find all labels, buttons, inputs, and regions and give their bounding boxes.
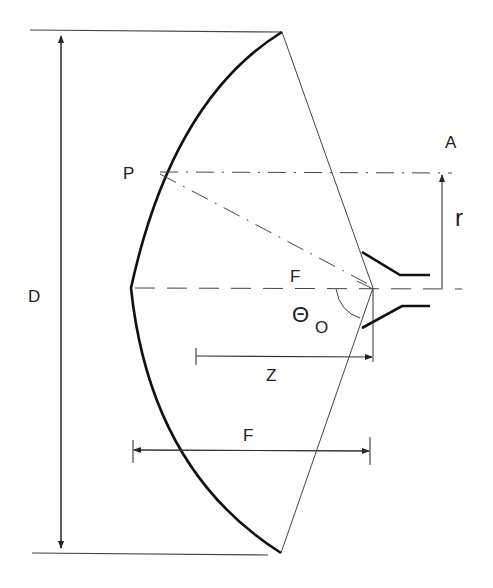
label-p: P (123, 164, 134, 183)
label-focus: F (290, 267, 300, 286)
reflector-diagram: D P A r F Θ O Z F (0, 0, 493, 588)
label-theta-subscript: O (315, 318, 328, 337)
aperture-ray (160, 172, 452, 173)
z-dimension-arrow (196, 356, 372, 357)
bottom-extension-line (32, 553, 268, 555)
upper-edge-ray (282, 32, 373, 288)
parabolic-dish (131, 32, 282, 553)
label-d: D (28, 287, 40, 306)
label-a: A (445, 133, 457, 152)
label-theta: Θ (292, 302, 309, 327)
f-dimension-arrow-left (134, 450, 369, 451)
label-focal-length: F (243, 426, 253, 445)
label-r: r (455, 204, 463, 231)
feed-horn-lower (362, 306, 430, 328)
label-z: Z (266, 366, 276, 385)
feed-horn-upper (362, 252, 430, 275)
principal-axis (135, 288, 462, 289)
angle-arc (336, 289, 360, 318)
top-extension-line (30, 30, 282, 32)
focus-ray (160, 174, 372, 286)
